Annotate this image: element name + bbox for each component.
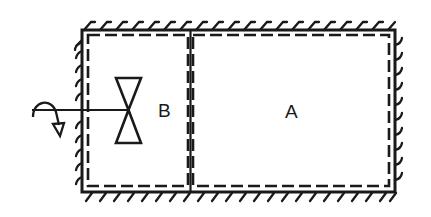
vessel-diagram — [0, 0, 431, 217]
rotation-arrow-icon — [33, 103, 64, 136]
bottom-wall-hatching — [86, 193, 396, 201]
compartment-b-label: B — [158, 101, 171, 120]
compartment-a-label: A — [285, 102, 298, 121]
